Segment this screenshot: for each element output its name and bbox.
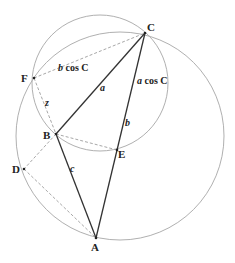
point-dot-D bbox=[23, 168, 26, 171]
label-side-a: a bbox=[100, 82, 105, 93]
geometry-diagram: C F B E D A a b c z b cos C a cos C bbox=[0, 0, 235, 263]
label-segment-z: z bbox=[44, 97, 49, 108]
dashed-DA bbox=[24, 169, 96, 238]
point-dot-C bbox=[144, 32, 147, 35]
point-dot-F bbox=[33, 77, 36, 80]
diagram-svg: C F B E D A a b c z b cos C a cos C bbox=[0, 0, 235, 263]
dashed-BE bbox=[56, 134, 117, 150]
label-point-B: B bbox=[43, 129, 51, 141]
label-side-b: b bbox=[125, 117, 130, 128]
label-point-C: C bbox=[147, 21, 155, 33]
label-point-D: D bbox=[12, 163, 20, 175]
point-dot-A bbox=[95, 237, 98, 240]
side-b-CA bbox=[96, 33, 145, 238]
label-a-cos-C: a cos C bbox=[137, 75, 168, 86]
dashed-BD bbox=[24, 134, 56, 169]
point-dot-B bbox=[55, 133, 58, 136]
label-point-E: E bbox=[118, 148, 125, 160]
label-b-cos-C: b cos C bbox=[58, 62, 89, 73]
label-point-A: A bbox=[91, 241, 99, 253]
label-side-c: c bbox=[70, 163, 75, 174]
dashed-FC bbox=[34, 33, 145, 78]
label-point-F: F bbox=[21, 72, 28, 84]
